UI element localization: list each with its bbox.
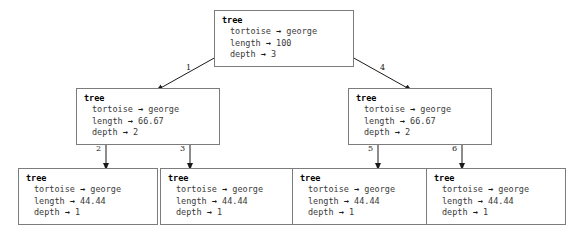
node-row: length → 44.44 xyxy=(308,196,425,208)
row-value: 1 xyxy=(483,207,488,217)
arrow-icon: → xyxy=(344,196,349,206)
arrow-icon: → xyxy=(410,104,415,114)
row-key: length xyxy=(308,196,339,206)
row-value: george xyxy=(364,184,395,194)
row-value: 66.67 xyxy=(410,116,436,126)
row-value: 44.44 xyxy=(80,196,106,206)
node-row: tortoise → george xyxy=(442,184,559,196)
node-rows: tortoise → george length → 100 depth → 3 xyxy=(222,26,347,61)
row-value: 2 xyxy=(133,127,138,137)
node-title: tree xyxy=(300,173,425,184)
row-key: tortoise xyxy=(442,184,483,194)
row-value: 1 xyxy=(217,207,222,217)
row-key: depth xyxy=(364,127,390,137)
row-value: 1 xyxy=(349,207,354,217)
node-rows: tortoise → george length → 66.67 depth →… xyxy=(84,104,213,139)
node-row: depth → 2 xyxy=(92,127,213,139)
edge-label-3: 3 xyxy=(180,144,185,153)
row-key: depth xyxy=(230,49,256,59)
row-value: george xyxy=(498,184,529,194)
tree-node-leaf-2[interactable]: tree tortoise → george length → 44.44 de… xyxy=(160,168,300,225)
node-title: tree xyxy=(84,93,213,104)
node-rows: tortoise → george length → 66.67 depth →… xyxy=(356,104,485,139)
node-title: tree xyxy=(434,173,559,184)
arrow-icon: → xyxy=(488,184,493,194)
row-key: length xyxy=(230,38,261,48)
tree-node-root[interactable]: tree tortoise → george length → 100 dept… xyxy=(214,10,354,67)
edge-label-6: 6 xyxy=(452,144,457,153)
row-key: depth xyxy=(308,207,334,217)
row-key: length xyxy=(364,116,395,126)
tree-node-mid-left[interactable]: tree tortoise → george length → 66.67 de… xyxy=(76,88,220,145)
arrow-icon: → xyxy=(123,127,128,137)
arrow-icon: → xyxy=(473,207,478,217)
node-row: length → 66.67 xyxy=(364,116,485,128)
node-row: depth → 1 xyxy=(442,207,559,219)
node-row: tortoise → george xyxy=(230,26,347,38)
row-key: tortoise xyxy=(176,184,217,194)
arrow-icon: → xyxy=(70,196,75,206)
node-title: tree xyxy=(222,15,347,26)
edge-label-1: 1 xyxy=(186,63,191,72)
row-key: depth xyxy=(34,207,60,217)
edge-line-1 xyxy=(157,57,216,90)
row-value: 1 xyxy=(75,207,80,217)
edge-label-5: 5 xyxy=(368,144,373,153)
row-value: george xyxy=(232,184,263,194)
row-value: 100 xyxy=(276,38,291,48)
node-row: length → 100 xyxy=(230,38,347,50)
row-key: depth xyxy=(442,207,468,217)
row-value: george xyxy=(148,104,179,114)
row-value: 3 xyxy=(271,49,276,59)
row-key: tortoise xyxy=(230,26,271,36)
row-key: tortoise xyxy=(92,104,133,114)
node-rows: tortoise → george length → 44.44 depth →… xyxy=(434,184,559,219)
node-title: tree xyxy=(356,93,485,104)
row-key: length xyxy=(34,196,65,206)
row-key: depth xyxy=(92,127,118,137)
node-row: tortoise → george xyxy=(92,104,213,116)
row-value: 66.67 xyxy=(138,116,164,126)
arrow-icon: → xyxy=(395,127,400,137)
row-key: length xyxy=(442,196,473,206)
row-value: 44.44 xyxy=(354,196,380,206)
tree-node-leaf-3[interactable]: tree tortoise → george length → 44.44 de… xyxy=(292,168,432,225)
node-row: length → 44.44 xyxy=(176,196,293,208)
edge-label-2: 2 xyxy=(96,144,101,153)
arrow-icon: → xyxy=(222,184,227,194)
row-key: tortoise xyxy=(364,104,405,114)
row-value: george xyxy=(420,104,451,114)
node-row: tortoise → george xyxy=(364,104,485,116)
row-key: length xyxy=(176,196,207,206)
row-key: tortoise xyxy=(308,184,349,194)
node-row: depth → 3 xyxy=(230,49,347,61)
node-title: tree xyxy=(168,173,293,184)
arrow-icon: → xyxy=(138,104,143,114)
tree-node-mid-right[interactable]: tree tortoise → george length → 66.67 de… xyxy=(348,88,492,145)
arrow-icon: → xyxy=(207,207,212,217)
node-row: depth → 1 xyxy=(176,207,293,219)
edge-label-4: 4 xyxy=(380,63,385,72)
node-rows: tortoise → george length → 44.44 depth →… xyxy=(26,184,151,219)
node-row: depth → 2 xyxy=(364,127,485,139)
node-row: tortoise → george xyxy=(34,184,151,196)
node-row: length → 44.44 xyxy=(34,196,151,208)
row-value: 2 xyxy=(405,127,410,137)
arrow-icon: → xyxy=(266,38,271,48)
tree-diagram-canvas: tree tortoise → george length → 100 dept… xyxy=(0,0,568,228)
tree-node-leaf-1[interactable]: tree tortoise → george length → 44.44 de… xyxy=(18,168,158,225)
node-row: length → 44.44 xyxy=(442,196,559,208)
node-row: depth → 1 xyxy=(34,207,151,219)
node-row: tortoise → george xyxy=(176,184,293,196)
arrow-icon: → xyxy=(261,49,266,59)
node-row: depth → 1 xyxy=(308,207,425,219)
node-row: length → 66.67 xyxy=(92,116,213,128)
row-key: depth xyxy=(176,207,202,217)
arrow-icon: → xyxy=(400,116,405,126)
node-rows: tortoise → george length → 44.44 depth →… xyxy=(300,184,425,219)
arrow-icon: → xyxy=(65,207,70,217)
row-value: george xyxy=(90,184,121,194)
node-title: tree xyxy=(26,173,151,184)
row-value: george xyxy=(286,26,317,36)
tree-node-leaf-4[interactable]: tree tortoise → george length → 44.44 de… xyxy=(426,168,566,225)
